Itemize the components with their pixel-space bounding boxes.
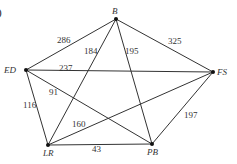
edge-weight-lr-pb: 43 bbox=[92, 145, 101, 154]
edge-weight-ed-pb: 91 bbox=[49, 88, 58, 97]
edge-weight-pb-fs: 197 bbox=[184, 111, 198, 120]
node-fs bbox=[211, 70, 215, 74]
edge-lr-fs bbox=[48, 72, 213, 145]
node-b bbox=[114, 17, 118, 21]
edge-weight-b-pb: 195 bbox=[125, 47, 139, 56]
edge-weight-b-lr: 184 bbox=[84, 47, 98, 56]
node-label-ed: ED bbox=[4, 66, 16, 75]
edge-b-pb bbox=[116, 19, 152, 144]
node-ed bbox=[24, 68, 28, 72]
weighted-graph-diagram: ) B ED FS LR PB 286 184 195 325 237 116 … bbox=[0, 0, 237, 164]
node-pb bbox=[150, 142, 154, 146]
node-label-b: B bbox=[112, 7, 118, 16]
edge-weight-ed-fs: 237 bbox=[59, 64, 73, 73]
edge-weight-ed-lr: 116 bbox=[23, 101, 36, 110]
node-lr bbox=[46, 143, 50, 147]
node-label-pb: PB bbox=[147, 148, 158, 157]
edge-pb-fs bbox=[152, 72, 213, 144]
node-label-lr: LR bbox=[43, 149, 54, 158]
node-label-fs: FS bbox=[217, 68, 227, 77]
edge-weight-lr-fs: 160 bbox=[72, 120, 86, 129]
edge-ed-fs bbox=[26, 70, 213, 72]
graph-canvas bbox=[0, 0, 237, 164]
edge-weight-b-ed: 286 bbox=[57, 36, 71, 45]
edge-weight-b-fs: 325 bbox=[168, 37, 182, 46]
